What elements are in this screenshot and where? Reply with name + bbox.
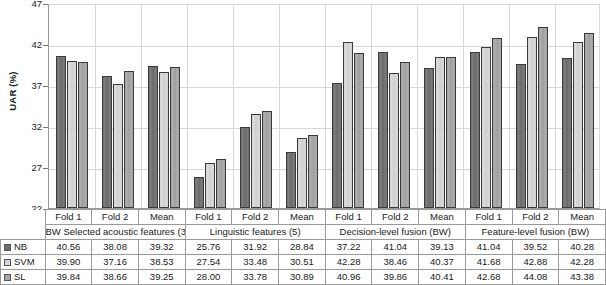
y-axis-tick-label: 32: [2, 122, 42, 132]
data-cell: 33.48: [232, 255, 279, 270]
data-cell: 28.00: [185, 270, 232, 285]
table-row: NB40.5638.0839.3225.7631.9228.8437.2241.…: [1, 240, 606, 255]
table-row: SVM39.9037.1638.5327.5433.4830.5142.2838…: [1, 255, 606, 270]
bar-nb: [240, 127, 250, 208]
data-cell: 39.52: [512, 240, 559, 255]
data-cell: 37.16: [92, 255, 139, 270]
data-cell: 42.28: [325, 255, 372, 270]
bar-sl: [354, 53, 364, 208]
data-cell: 41.68: [465, 255, 512, 270]
fold-header-cell: Mean: [279, 210, 326, 225]
fold-header-cell: Mean: [419, 210, 466, 225]
bar-nb: [516, 64, 526, 208]
data-cell: 39.86: [372, 270, 419, 285]
bar-sl: [538, 27, 548, 208]
bar-sl: [584, 33, 594, 208]
fold-header-cell: Fold 1: [45, 210, 92, 225]
data-cell: 40.56: [45, 240, 92, 255]
data-cell: 40.96: [325, 270, 372, 285]
fold-header-cell: Fold 2: [372, 210, 419, 225]
data-cell: 44.08: [512, 270, 559, 285]
group-header-cell: Decision-level fusion (BW): [325, 225, 465, 240]
data-cell: 33.78: [232, 270, 279, 285]
bar-svm: [343, 42, 353, 208]
fold-header-cell: Fold 1: [465, 210, 512, 225]
legend-entry-sl: SL: [1, 270, 46, 285]
fold-header-cell: Mean: [559, 210, 606, 225]
bar-series-layer: [49, 5, 599, 208]
bar-svm: [573, 42, 583, 208]
data-cell: 39.13: [419, 240, 466, 255]
group-header-cell: Linguistic features (5): [185, 225, 325, 240]
bar-svm: [113, 84, 123, 208]
data-cell: 40.28: [559, 240, 606, 255]
data-cell: 39.32: [138, 240, 185, 255]
data-cell: 39.90: [45, 255, 92, 270]
data-cell: 39.84: [45, 270, 92, 285]
fold-header-cell: Fold 2: [232, 210, 279, 225]
data-cell: 40.41: [419, 270, 466, 285]
bar-svm: [297, 138, 307, 208]
data-cell: 42.68: [465, 270, 512, 285]
bar-nb: [286, 152, 296, 208]
data-cell: 40.37: [419, 255, 466, 270]
legend-entry-nb: NB: [1, 240, 46, 255]
data-cell: 38.53: [138, 255, 185, 270]
y-axis-tick-label: 42: [2, 40, 42, 50]
legend-label: SVM: [14, 256, 35, 267]
bar-nb: [378, 52, 388, 208]
bar-svm: [251, 114, 261, 208]
table-row: Fold 1Fold 2MeanFold 1Fold 2MeanFold 1Fo…: [1, 210, 606, 225]
bar-sl: [308, 135, 318, 208]
data-cell: 38.66: [92, 270, 139, 285]
legend-label: SL: [14, 271, 26, 282]
y-axis-tick-label: 27: [2, 163, 42, 173]
bar-sl: [216, 159, 226, 208]
fold-header-cell: Fold 1: [185, 210, 232, 225]
table-corner-cell: [1, 225, 46, 240]
bar-sl: [124, 71, 134, 208]
bar-svm: [481, 47, 491, 208]
y-axis-tick-label: 47: [2, 0, 42, 9]
data-cell: 39.25: [138, 270, 185, 285]
y-axis-ticks: 222732374247: [0, 0, 48, 218]
bar-svm: [527, 37, 537, 208]
data-cell: 28.84: [279, 240, 326, 255]
fold-header-cell: Fold 2: [512, 210, 559, 225]
data-cell: 25.76: [185, 240, 232, 255]
bar-nb: [102, 76, 112, 208]
legend-entry-svm: SVM: [1, 255, 46, 270]
table-row: BW Selected acoustic features (305)Lingu…: [1, 225, 606, 240]
bar-nb: [194, 177, 204, 208]
bar-nb: [562, 58, 572, 208]
data-cell: 38.08: [92, 240, 139, 255]
data-cell: 41.04: [465, 240, 512, 255]
bar-sl: [170, 67, 180, 208]
group-header-cell: BW Selected acoustic features (305): [45, 225, 185, 240]
legend-swatch-icon: [4, 274, 11, 281]
data-cell: 42.88: [512, 255, 559, 270]
bar-sl: [400, 62, 410, 208]
bar-nb: [332, 83, 342, 208]
legend-swatch-icon: [4, 259, 11, 266]
bar-svm: [389, 73, 399, 208]
group-header-cell: Feature-level fusion (BW): [465, 225, 605, 240]
bar-svm: [67, 61, 77, 208]
legend-label: NB: [14, 241, 27, 252]
data-cell: 37.22: [325, 240, 372, 255]
bar-sl: [492, 38, 502, 208]
data-cell: 43.38: [559, 270, 606, 285]
bar-sl: [262, 111, 272, 208]
bar-sl: [78, 62, 88, 208]
data-cell: 41.04: [372, 240, 419, 255]
bar-nb: [148, 66, 158, 208]
bar-svm: [205, 163, 215, 208]
fold-header-cell: Fold 1: [325, 210, 372, 225]
y-axis-tick-label: 37: [2, 81, 42, 91]
table-row: SL39.8438.6639.2528.0033.7830.8940.9639.…: [1, 270, 606, 285]
data-cell: 30.89: [279, 270, 326, 285]
fold-header-cell: Fold 2: [92, 210, 139, 225]
data-cell: 30.51: [279, 255, 326, 270]
bar-nb: [470, 52, 480, 208]
